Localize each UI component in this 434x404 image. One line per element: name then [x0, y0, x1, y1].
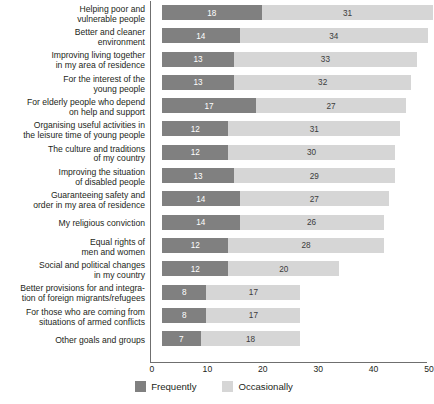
bar-area: 1329: [150, 166, 428, 189]
bar-segment-frequently: 13: [162, 75, 234, 90]
bar-segment-occasionally: 29: [234, 168, 395, 183]
bar-area: 1228: [150, 236, 428, 259]
bar-area: 817: [150, 283, 428, 306]
bar-area: 1426: [150, 213, 428, 236]
bar-segment-frequently: 12: [162, 121, 228, 136]
stacked-bar: 1228: [162, 238, 384, 253]
y-axis-line: [150, 1, 151, 362]
legend-label: Frequently: [151, 381, 196, 392]
category-label: Improving living together in my area of …: [0, 51, 150, 71]
category-label: The culture and traditions of my country: [0, 145, 150, 165]
bar-segment-occasionally: 18: [201, 331, 301, 346]
x-tick-label: 40: [369, 364, 379, 374]
bar-segment-frequently: 12: [162, 238, 228, 253]
bar-segment-occasionally: 27: [240, 191, 390, 206]
stacked-bar: 1727: [162, 98, 406, 113]
bar-segment-occasionally: 31: [228, 121, 400, 136]
bar-value-label: 18: [201, 334, 301, 343]
x-tick-label: 30: [313, 364, 323, 374]
bar-segment-frequently: 14: [162, 215, 240, 230]
chart-row: For the interest of the young people1332: [0, 73, 428, 96]
bar-value-label: 13: [162, 78, 234, 87]
bar-area: 1332: [150, 73, 428, 96]
bar-segment-occasionally: 33: [234, 52, 417, 67]
x-tick-label: 10: [203, 364, 213, 374]
chart-row: Organising useful activities in the leis…: [0, 119, 428, 142]
bar-value-label: 8: [162, 288, 206, 297]
bar-segment-frequently: 7: [162, 331, 201, 346]
bar-segment-occasionally: 32: [234, 75, 411, 90]
bar-segment-frequently: 8: [162, 285, 206, 300]
x-axis-ticks: 01020304050: [0, 364, 428, 378]
bar-value-label: 27: [256, 101, 406, 110]
bar-value-label: 13: [162, 171, 234, 180]
bar-value-label: 12: [162, 124, 228, 133]
chart-row: Better and cleaner environment1434: [0, 26, 428, 49]
bar-area: 1427: [150, 189, 428, 212]
stacked-bar: 718: [162, 331, 300, 346]
chart-row: Better provisions for and integra- tion …: [0, 283, 428, 306]
bar-value-label: 28: [228, 241, 383, 250]
bar-segment-occasionally: 28: [228, 238, 383, 253]
category-label: Social and political changes in my count…: [0, 261, 150, 281]
bar-value-label: 29: [234, 171, 395, 180]
category-label: Other goals and groups: [0, 336, 150, 346]
bar-segment-occasionally: 30: [228, 145, 394, 160]
bar-value-label: 33: [234, 55, 417, 64]
bar-value-label: 17: [162, 101, 256, 110]
bar-value-label: 30: [228, 148, 394, 157]
bar-value-label: 7: [162, 334, 201, 343]
x-axis-line: [150, 362, 427, 363]
bar-segment-occasionally: 26: [240, 215, 384, 230]
bar-value-label: 17: [206, 311, 300, 320]
bar-segment-occasionally: 31: [262, 5, 434, 20]
chart-row: Equal rights of men and women1228: [0, 236, 428, 259]
legend-item[interactable]: Occasionally: [222, 381, 292, 392]
bar-segment-frequently: 13: [162, 168, 234, 183]
category-label: Helping poor and vulnerable people: [0, 5, 150, 25]
category-label: Guaranteeing safety and order in my area…: [0, 191, 150, 211]
category-label: For the interest of the young people: [0, 75, 150, 95]
bar-area: 1333: [150, 50, 428, 73]
category-label: Organising useful activities in the leis…: [0, 121, 150, 141]
bar-value-label: 14: [162, 194, 240, 203]
chart-rows: Helping poor and vulnerable people1831Be…: [0, 3, 428, 352]
chart-row: Guaranteeing safety and order in my area…: [0, 189, 428, 212]
category-label: For those who are coming from situations…: [0, 308, 150, 328]
bar-value-label: 31: [262, 8, 434, 17]
bar-area: 1230: [150, 143, 428, 166]
stacked-bar: 1329: [162, 168, 395, 183]
stacked-bar: 817: [162, 308, 300, 323]
legend-label: Occasionally: [238, 381, 292, 392]
bar-segment-frequently: 14: [162, 191, 240, 206]
category-label: Better provisions for and integra- tion …: [0, 284, 150, 304]
bar-value-label: 12: [162, 241, 228, 250]
stacked-bar: 1427: [162, 191, 389, 206]
bar-segment-frequently: 12: [162, 145, 228, 160]
bar-value-label: 32: [234, 78, 411, 87]
legend-item[interactable]: Frequently: [135, 381, 196, 392]
bar-area: 1831: [150, 3, 428, 26]
category-label: Equal rights of men and women: [0, 238, 150, 258]
legend-swatch-icon: [222, 381, 233, 392]
bar-value-label: 8: [162, 311, 206, 320]
stacked-bar: 1332: [162, 75, 411, 90]
bar-value-label: 31: [228, 124, 400, 133]
bar-value-label: 17: [206, 288, 300, 297]
category-label: Improving the situation of disabled peop…: [0, 168, 150, 188]
stacked-bar: 1220: [162, 261, 339, 276]
bar-value-label: 20: [228, 264, 339, 273]
bar-segment-occasionally: 34: [240, 28, 428, 43]
bar-value-label: 14: [162, 218, 240, 227]
bar-area: 1727: [150, 96, 428, 119]
chart-legend: FrequentlyOccasionally: [0, 381, 428, 392]
bar-segment-occasionally: 27: [256, 98, 406, 113]
chart-row: My religious conviction1426: [0, 213, 428, 236]
chart-row: The culture and traditions of my country…: [0, 143, 428, 166]
stacked-bar: 1231: [162, 121, 400, 136]
bar-segment-occasionally: 17: [206, 308, 300, 323]
chart-row: Improving living together in my area of …: [0, 50, 428, 73]
category-label: For elderly people who depend on help an…: [0, 98, 150, 118]
stacked-bar: 1333: [162, 52, 417, 67]
bar-segment-frequently: 14: [162, 28, 240, 43]
